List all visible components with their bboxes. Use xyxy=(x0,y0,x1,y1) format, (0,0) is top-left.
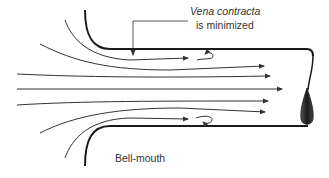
streamline-1 xyxy=(65,20,188,60)
pipe-exit-edge xyxy=(308,56,313,90)
streamline-3 xyxy=(17,74,270,77)
bell-mouth-label: Bell-mouth xyxy=(115,152,165,164)
vena-contracta-sublabel: is minimized xyxy=(196,19,254,31)
vena-contracta-label: Vena contracta xyxy=(190,5,260,17)
exit-drop-icon xyxy=(301,88,313,124)
streamline-6 xyxy=(40,108,265,133)
streamline-5 xyxy=(17,101,268,105)
eddy-top-icon xyxy=(197,53,213,60)
streamlines xyxy=(17,20,282,158)
eddy-bottom-icon xyxy=(196,116,212,123)
streamline-2 xyxy=(40,44,264,70)
